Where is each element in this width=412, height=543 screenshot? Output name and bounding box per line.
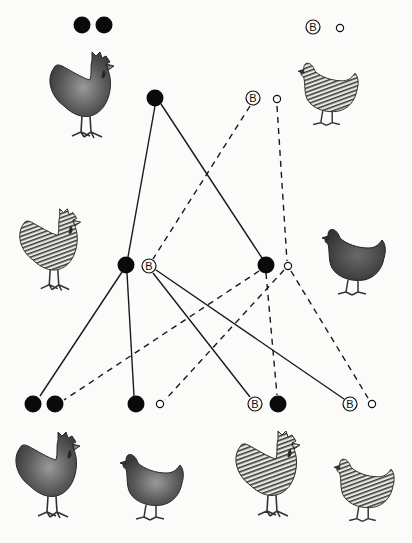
barring-B-chromosome-icon: B [306, 20, 320, 34]
dashed-line-female-open-to-f1-hen [277, 106, 287, 261]
f1-hen-non-barred-image [322, 229, 385, 295]
solid-line-f1-B-to-f2-3 [153, 273, 250, 397]
f2-barred-hen-genotype: B [343, 397, 376, 411]
dashed-line-f1-hen-open-to-f2-2 [165, 270, 284, 400]
male-gamete-filled-icon [147, 90, 164, 107]
female-gamete-B-icon: B [246, 91, 260, 105]
svg-text:B: B [346, 398, 353, 410]
dashed-line-f1-hen-open-to-f2-4 [291, 271, 368, 398]
dashed-line-f1-hen-filled-to-f2-1 [64, 271, 259, 400]
f2-hen-barred-image [334, 459, 394, 521]
f2-non-barred-hen-genotype [128, 396, 164, 413]
filled-chromosome-icon [96, 17, 113, 34]
open-chromosome-icon [336, 24, 343, 31]
open-chromosome-icon [368, 400, 375, 407]
filled-chromosome-icon [74, 17, 91, 34]
svg-text:B: B [251, 398, 258, 410]
filled-chromosome-icon [118, 257, 135, 274]
filled-chromosome-icon [128, 396, 145, 413]
parent-hen-barred-image [298, 63, 358, 125]
f2-hen-non-barred-image [120, 454, 183, 520]
filled-chromosome-icon [270, 396, 287, 413]
solid-line-f1-filled-to-f2-2 [127, 273, 134, 396]
parent-female-genotype: B [306, 20, 344, 34]
f2-rooster-barred-image [236, 431, 300, 517]
dashed-line-f1-hen-filled-to-f2-3 [266, 273, 277, 395]
solid-line-male-to-f1-rooster [128, 106, 155, 257]
svg-text:B: B [249, 92, 256, 104]
dashed-line-female-B-to-f1-rooster [153, 106, 250, 259]
inheritance-diagram: B B B B B [0, 0, 412, 543]
f2-barred-rooster-genotype: B [248, 396, 287, 413]
open-chromosome-icon [156, 400, 163, 407]
barring-B-chromosome-icon: B [142, 259, 156, 273]
svg-text:B: B [309, 21, 316, 33]
open-chromosome-icon [284, 262, 291, 269]
female-gamete-open-icon [273, 95, 280, 102]
solid-line-f1-filled-to-f2-1 [40, 272, 122, 396]
filled-chromosome-icon [258, 257, 275, 274]
f2-non-barred-rooster-genotype [25, 396, 64, 413]
parent-rooster-non-barred-image [50, 52, 114, 138]
solid-line-male-to-f1-hen [161, 104, 262, 258]
barring-B-chromosome-icon: B [343, 397, 357, 411]
f1-rooster-barred-image [20, 209, 81, 291]
filled-chromosome-icon [47, 396, 64, 413]
barring-B-chromosome-icon: B [248, 397, 262, 411]
f2-rooster-non-barred-image [16, 432, 80, 518]
parent-male-genotype [74, 17, 113, 34]
filled-chromosome-icon [25, 396, 42, 413]
f1-hen-genotype [258, 257, 292, 274]
f1-rooster-genotype: B [118, 257, 157, 274]
svg-text:B: B [145, 260, 152, 272]
